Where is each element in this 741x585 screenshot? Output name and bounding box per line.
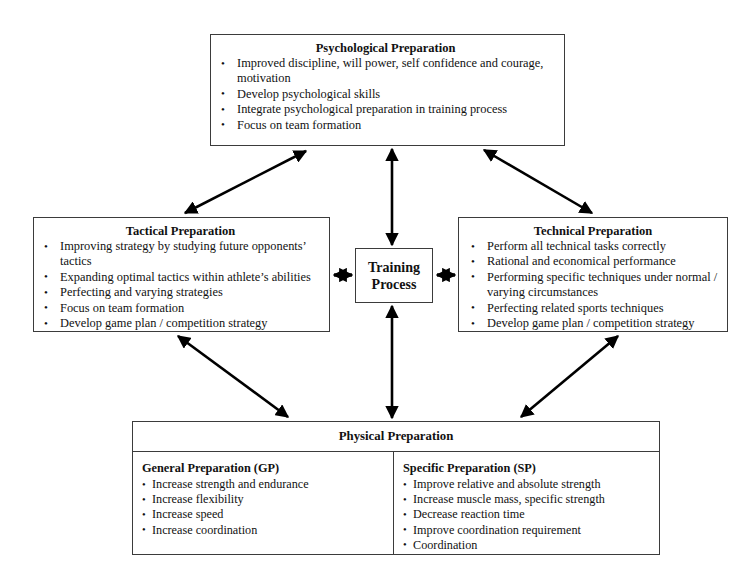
list-item: Develop game plan / competition strategy — [38, 316, 323, 331]
physical-header: Physical Preparation — [133, 422, 659, 452]
list-item: Integrate psychological preparation in t… — [215, 102, 556, 117]
arrow-technical-physical — [521, 336, 618, 417]
arrow-tactical-psychological — [185, 151, 306, 213]
list-item: Coordination — [403, 538, 651, 553]
list-item: Improving strategy by studying future op… — [38, 239, 323, 270]
general-preparation-bullet-list: Increase strength and endurance Increase… — [142, 477, 385, 538]
physical-columns: General Preparation (GP) Increase streng… — [133, 452, 659, 554]
list-item: Focus on team formation — [215, 118, 556, 133]
diagram-canvas: Psychological Preparation Improved disci… — [0, 0, 741, 585]
training-process-line2: Process — [372, 277, 417, 292]
list-item: Perform all technical tasks correctly — [465, 239, 721, 254]
box-psychological-preparation[interactable]: Psychological Preparation Improved disci… — [210, 34, 565, 146]
psychological-title: Psychological Preparation — [215, 41, 556, 56]
list-item: Develop game plan / competition strategy — [465, 316, 721, 331]
list-item: Improve relative and absolute strength — [403, 477, 651, 492]
list-item: Rational and economical performance — [465, 254, 721, 269]
list-item: Perfecting and varying strategies — [38, 285, 323, 300]
general-preparation-column: General Preparation (GP) Increase streng… — [133, 452, 394, 554]
specific-preparation-subtitle: Specific Preparation (SP) — [403, 461, 651, 476]
list-item: Focus on team formation — [38, 301, 323, 316]
list-item: Increase muscle mass, specific strength — [403, 492, 651, 507]
specific-preparation-bullet-list: Improve relative and absolute strength I… — [403, 477, 651, 553]
list-item: Performing specific techniques under nor… — [465, 270, 721, 301]
psychological-bullet-list: Improved discipline, will power, self co… — [215, 56, 556, 133]
general-preparation-subtitle: General Preparation (GP) — [142, 461, 385, 476]
technical-title: Technical Preparation — [465, 224, 721, 239]
list-item: Improve coordination requirement — [403, 523, 651, 538]
list-item: Improved discipline, will power, self co… — [215, 56, 556, 87]
box-physical-preparation[interactable]: Physical Preparation General Preparation… — [132, 421, 660, 555]
technical-bullet-list: Perform all technical tasks correctly Ra… — [465, 239, 721, 331]
list-item: Develop psychological skills — [215, 87, 556, 102]
training-process-line1: Training — [368, 260, 420, 275]
list-item: Increase strength and endurance — [142, 477, 385, 492]
box-technical-preparation[interactable]: Technical Preparation Perform all techni… — [458, 217, 728, 332]
box-tactical-preparation[interactable]: Tactical Preparation Improving strategy … — [33, 217, 330, 332]
specific-preparation-column: Specific Preparation (SP) Improve relati… — [394, 452, 659, 554]
list-item: Perfecting related sports techniques — [465, 301, 721, 316]
arrow-technical-psychological — [484, 150, 592, 213]
tactical-title: Tactical Preparation — [38, 224, 323, 239]
tactical-bullet-list: Improving strategy by studying future op… — [38, 239, 323, 331]
list-item: Expanding optimal tactics within athlete… — [38, 270, 323, 285]
list-item: Increase coordination — [142, 523, 385, 538]
physical-title: Physical Preparation — [339, 429, 454, 444]
arrow-tactical-physical — [178, 336, 288, 417]
list-item: Increase flexibility — [142, 492, 385, 507]
list-item: Increase speed — [142, 507, 385, 522]
box-training-process[interactable]: Training Process — [355, 248, 433, 303]
training-process-label: Training Process — [368, 259, 420, 293]
list-item: Decrease reaction time — [403, 507, 651, 522]
